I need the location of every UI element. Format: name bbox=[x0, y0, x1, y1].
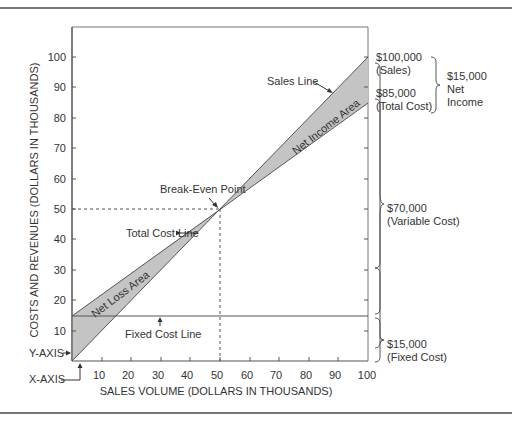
fixed-cost-line-label: Fixed Cost Line bbox=[125, 328, 201, 340]
svg-text:90: 90 bbox=[329, 369, 341, 381]
svg-text:40: 40 bbox=[181, 369, 193, 381]
svg-text:20: 20 bbox=[54, 294, 66, 306]
sales-caption: (Sales) bbox=[376, 64, 411, 76]
svg-text:90: 90 bbox=[54, 81, 66, 93]
svg-text:30: 30 bbox=[54, 264, 66, 276]
svg-text:70: 70 bbox=[54, 142, 66, 154]
svg-text:50: 50 bbox=[54, 203, 66, 215]
x-axis-callout: X-AXIS bbox=[29, 373, 65, 385]
fixed-cost-arrowhead bbox=[158, 317, 163, 322]
svg-text:60: 60 bbox=[54, 173, 66, 185]
y-axis-callout: Y-AXIS bbox=[29, 347, 64, 359]
svg-text:30: 30 bbox=[152, 369, 164, 381]
fixed-cost-caption: (Fixed Cost) bbox=[387, 351, 447, 363]
y-axis-title: COSTS AND REVENUES (DOLLARS IN THOUSANDS… bbox=[28, 63, 40, 338]
svg-text:70: 70 bbox=[270, 369, 282, 381]
break-even-label: Break-Even Point bbox=[160, 183, 246, 195]
net-income-amount: $15,000 bbox=[447, 70, 487, 82]
svg-text:60: 60 bbox=[241, 369, 253, 381]
x-tick-labels: 10 20 30 40 50 60 70 80 90 100 bbox=[93, 369, 376, 381]
sales-line-label: Sales Line bbox=[267, 75, 318, 87]
svg-text:20: 20 bbox=[122, 369, 134, 381]
svg-text:50: 50 bbox=[211, 369, 223, 381]
svg-text:100: 100 bbox=[48, 51, 66, 63]
svg-text:80: 80 bbox=[300, 369, 312, 381]
variable-cost-amount: $70,000 bbox=[387, 202, 427, 214]
svg-text:100: 100 bbox=[358, 369, 376, 381]
net-income-brace bbox=[431, 57, 440, 113]
total-cost-caption: (Total Cost) bbox=[376, 100, 432, 112]
total-cost-amount: $85,000 bbox=[376, 87, 416, 99]
svg-text:10: 10 bbox=[54, 325, 66, 337]
y-axis-arrowhead bbox=[66, 351, 71, 356]
x-axis-arrowhead bbox=[78, 363, 83, 368]
break-even-chart: 10 20 30 40 50 60 70 80 90 100 10 20 30 … bbox=[0, 0, 512, 429]
svg-text:40: 40 bbox=[54, 233, 66, 245]
y-tick-labels: 10 20 30 40 50 60 70 80 90 100 bbox=[48, 51, 66, 337]
svg-text:10: 10 bbox=[93, 369, 105, 381]
net-income-label-1: Net bbox=[447, 83, 464, 95]
sales-amount: $100,000 bbox=[376, 51, 422, 63]
x-axis-title: SALES VOLUME (DOLLARS IN THOUSANDS) bbox=[100, 385, 333, 397]
net-income-label-2: Income bbox=[447, 96, 483, 108]
sales-line-arrowhead bbox=[327, 88, 333, 93]
svg-text:80: 80 bbox=[54, 112, 66, 124]
variable-cost-caption: (Variable Cost) bbox=[387, 215, 460, 227]
fixed-cost-amount: $15,000 bbox=[387, 338, 427, 350]
